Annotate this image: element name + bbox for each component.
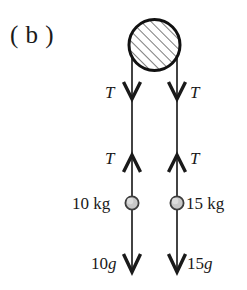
weight-left-symbol: g [108,254,117,273]
mass-label-left: 10 kg [72,195,110,212]
mass-right-bob [170,196,183,209]
tension-label-lower-right: T [190,150,199,167]
pulley [129,20,180,71]
weight-right-number: 15 [187,254,204,273]
weight-right-symbol: g [204,254,213,273]
weight-label-right: 15g [187,255,213,272]
mass-left-bob [125,196,138,209]
free-body-diagram-figure: ( b ) T T T T 10 kg 15 kg 10g 15g [0,0,247,290]
weight-label-left: 10g [91,255,117,272]
mass-label-right: 15 kg [186,195,224,212]
tension-label-upper-right: T [190,84,199,101]
panel-label: ( b ) [10,22,54,47]
tension-label-upper-left: T [105,84,114,101]
weight-left-number: 10 [91,254,108,273]
tension-label-lower-left: T [105,150,114,167]
